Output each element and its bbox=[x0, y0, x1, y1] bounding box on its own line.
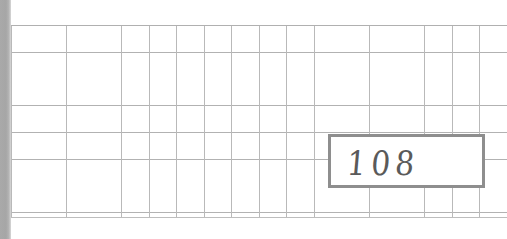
handwritten-answer-box[interactable]: 108 bbox=[328, 134, 485, 188]
scanned-grid-paper-page: 108 bbox=[0, 0, 507, 239]
grid-bottom-rule bbox=[11, 217, 507, 218]
handwritten-answer-value: 108 bbox=[345, 141, 421, 186]
grid-paper-ruling bbox=[11, 25, 507, 218]
grid-top-rule bbox=[11, 25, 507, 26]
page-edge-shadow bbox=[0, 0, 11, 239]
